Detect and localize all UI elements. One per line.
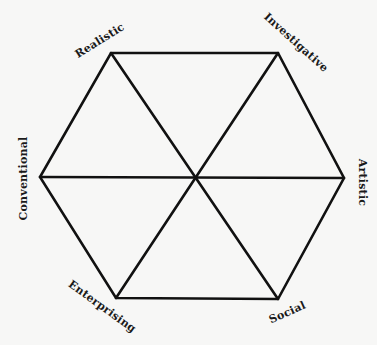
spoke-conventional-artistic	[40, 177, 344, 178]
label-artistic: Artistic	[356, 159, 369, 206]
label-conventional: Conventional	[17, 137, 30, 221]
hexagon-diagram	[0, 0, 377, 345]
